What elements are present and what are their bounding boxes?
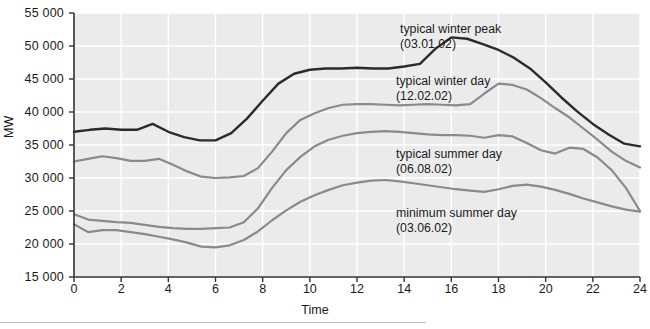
- chart-figure: 15 00020 00025 00030 00035 00040 00045 0…: [0, 0, 650, 329]
- annotation-series-name: typical winter day: [396, 74, 490, 88]
- x-axis-title-text: Time: [301, 303, 328, 317]
- annotation-series-date: (03.01.02): [400, 37, 501, 52]
- x-axis-tick-label: 18: [492, 283, 506, 296]
- x-axis-tick-label: 12: [350, 283, 364, 296]
- x-axis-tick-label: 10: [303, 283, 317, 296]
- annotation-series-date: (03.06.02): [396, 221, 517, 236]
- series-annotation: typical winter day(12.02.02): [396, 74, 490, 104]
- y-axis-title: MW: [2, 116, 16, 138]
- x-axis-tick-label: 24: [633, 283, 647, 296]
- x-axis-tick-label: 4: [165, 283, 172, 296]
- annotation-series-name: typical winter peak: [400, 22, 501, 36]
- x-axis-tick-labels: 024681012141618202224: [0, 0, 650, 329]
- series-annotation: minimum summer day(03.06.02): [396, 206, 517, 236]
- x-axis-tick-label: 20: [539, 283, 553, 296]
- x-axis-tick-label: 0: [71, 283, 78, 296]
- x-axis-tick-label: 6: [212, 283, 219, 296]
- series-annotation: typical summer day(06.08.02): [396, 147, 502, 177]
- annotation-series-date: (06.08.02): [396, 162, 502, 177]
- annotation-series-date: (12.02.02): [396, 89, 490, 104]
- annotation-series-name: minimum summer day: [396, 206, 517, 220]
- annotation-series-name: typical summer day: [396, 147, 502, 161]
- series-annotation: typical winter peak(03.01.02): [400, 22, 501, 52]
- x-axis-tick-label: 16: [444, 283, 458, 296]
- x-axis-tick-label: 14: [397, 283, 411, 296]
- x-axis-tick-label: 2: [118, 283, 125, 296]
- x-axis-title: Time: [0, 303, 650, 317]
- footer-divider: [0, 322, 426, 323]
- x-axis-tick-label: 22: [586, 283, 600, 296]
- x-axis-tick-label: 8: [259, 283, 266, 296]
- y-axis-title-text: MW: [2, 116, 16, 138]
